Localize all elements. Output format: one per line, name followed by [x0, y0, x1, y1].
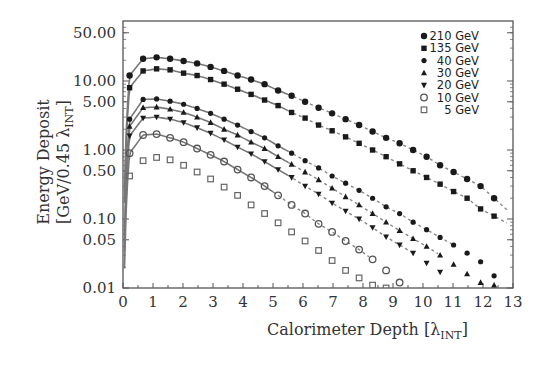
- legend-item: 5 GeV: [421, 103, 479, 117]
- y-tick-label: 50.00: [73, 24, 116, 42]
- x-tick-label: 5: [268, 293, 278, 311]
- x-tick-label: 7: [328, 293, 338, 311]
- y-tick-label: 1.00: [83, 141, 116, 159]
- x-tick-label: 8: [358, 293, 368, 311]
- x-axis-ticks: 012345678910111213: [118, 283, 522, 311]
- y-tick-label: 0.01: [83, 279, 116, 297]
- x-tick-label: 11: [443, 293, 462, 311]
- x-tick-label: 3: [208, 293, 218, 311]
- y-tick-label: 10.00: [73, 72, 116, 90]
- x-tick-label: 4: [238, 293, 248, 311]
- legend-label: 5 GeV: [444, 103, 479, 117]
- legend: 210 GeV135 GeV40 GeV30 GeV20 GeV10 GeV5 …: [421, 29, 479, 117]
- series-30-gev: [127, 104, 498, 288]
- y-axis-title: Energy Deposit [GeV/0.45 λINT]: [34, 99, 76, 225]
- y-tick-label: 0.05: [83, 231, 116, 249]
- y-tick-label: 0.10: [83, 210, 116, 228]
- x-tick-label: 0: [118, 293, 128, 311]
- energy-deposit-chart: 012345678910111213 50.0010.005.001.000.5…: [0, 0, 555, 367]
- series-10-gev: [126, 131, 403, 286]
- x-tick-label: 6: [298, 293, 308, 311]
- series-5-gev: [127, 155, 389, 291]
- y-tick-label: 0.50: [83, 162, 116, 180]
- x-tick-label: 2: [178, 293, 188, 311]
- x-tick-label: 9: [388, 293, 398, 311]
- series-40-gev: [127, 96, 497, 278]
- y-axis-title-line1: Energy Deposit: [34, 99, 53, 225]
- x-axis-title: Calorimeter Depth [λINT]: [267, 320, 468, 342]
- x-tick-label: 1: [148, 293, 158, 311]
- y-tick-label: 5.00: [83, 93, 116, 111]
- x-tick-label: 12: [473, 293, 492, 311]
- x-tick-label: 13: [503, 293, 522, 311]
- x-tick-label: 10: [413, 293, 432, 311]
- y-axis-title-line2: [GeV/0.45 λINT]: [54, 100, 76, 224]
